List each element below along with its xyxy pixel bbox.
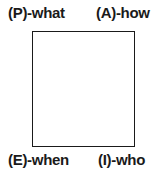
label-p-what: (P)-what xyxy=(8,5,65,21)
label-i-who: (I)-who xyxy=(98,152,145,168)
square-box xyxy=(32,31,135,147)
label-a-how: (A)-how xyxy=(96,5,150,21)
label-e-when: (E)-when xyxy=(8,152,69,168)
